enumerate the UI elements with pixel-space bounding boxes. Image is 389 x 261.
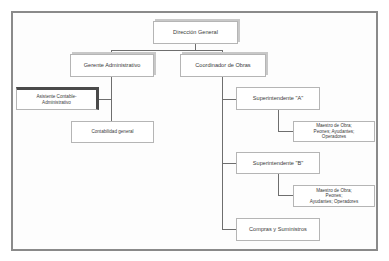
connector-sup-b-down [278,174,279,196]
connector-to-maestro-a [278,131,293,132]
connector-to-sup-a [222,99,236,100]
node-label: Compras y Suministros [249,226,307,233]
node-label: Superintendente "A" [253,95,303,102]
connector-to-compras [222,229,236,230]
node-gerente-administrativo: Gerente Administrativo [70,54,154,77]
node-maestro-obra-b: Maestro de Obra; Peones; Ayudantes; Oper… [293,185,375,207]
node-maestro-obra-a: Maestro de Obra; Peones; Ayudantes; Oper… [293,121,375,142]
node-label: Contabilidad general [91,129,133,135]
node-asistente-contable: Asistente Contable- Administrativo [16,87,99,110]
node-label: Dirección General [173,29,218,36]
node-superintendente-a: Superintendente "A" [236,87,320,110]
node-label: Coordinador de Obras [195,62,250,69]
connector-to-maestro-b [278,195,293,196]
connector-sup-a-down [278,110,279,132]
node-contabilidad-general: Contabilidad general [71,121,154,143]
node-label-line2: Administrativo [42,100,71,106]
node-coordinador-obras: Coordinador de Obras [180,54,266,77]
connector-to-sup-b [222,163,236,164]
connector-top-horizontal [111,50,223,51]
node-direccion-general: Dirección General [153,21,238,44]
node-label-line3: Ayudantes; Operadores [310,199,358,205]
node-label-line3: Operadores [322,134,346,140]
node-label: Gerente Administrativo [84,62,141,69]
node-label: Superintendente "B" [253,160,303,167]
connector-to-asistente [99,99,111,100]
node-compras-suministros: Compras y Suministros [236,218,320,241]
node-superintendente-b: Superintendente "B" [236,152,320,174]
connector-gerente-down [111,77,112,121]
